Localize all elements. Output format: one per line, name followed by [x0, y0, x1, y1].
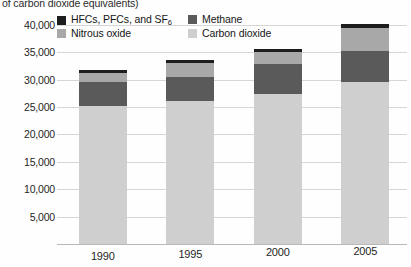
legend-swatch-methane: [188, 15, 197, 24]
bar-1995: [166, 60, 214, 244]
y-axis-tick-label: 35,000: [3, 46, 55, 58]
bar-segment-carbon-dioxide: [79, 106, 127, 244]
bar-segment-methane: [166, 77, 214, 101]
x-axis-tick-label: 1990: [73, 250, 133, 262]
bar-segment-methane: [341, 51, 389, 82]
bar-segment-hfcs-pfcs-and-sf6: [341, 24, 389, 28]
legend-swatch-hfcs-pfcs-sf6: [57, 16, 66, 25]
bar-segment-nitrous-oxide: [341, 28, 389, 52]
legend-label: Nitrous oxide: [71, 28, 131, 39]
y-axis-caption: of carbon dioxide equivalents): [2, 0, 202, 9]
bar-segment-nitrous-oxide: [254, 52, 302, 64]
y-axis-tick-labels: 5,00010,00015,00020,00025,00030,00035,00…: [0, 14, 55, 244]
bar-segment-hfcs-pfcs-and-sf6: [254, 49, 302, 52]
y-axis-tick-label: 30,000: [3, 74, 55, 86]
legend-item-hfcs-pfcs-sf6: HFCs, PFCs, and SF6: [57, 14, 172, 26]
legend-swatch-carbon-dioxide: [188, 29, 197, 38]
bar-segment-hfcs-pfcs-and-sf6: [79, 70, 127, 73]
bar-segment-methane: [79, 82, 127, 106]
x-axis-tick-label: 1995: [160, 248, 220, 260]
y-axis-tick-label: 20,000: [3, 128, 55, 140]
legend-label: HFCs, PFCs, and SF6: [71, 14, 172, 26]
bar-segment-nitrous-oxide: [79, 73, 127, 82]
bar-1990: [79, 70, 127, 244]
y-axis-tick-label: 10,000: [3, 183, 55, 195]
x-axis-tick-labels: 1990199520002005: [57, 244, 407, 266]
legend-item-carbon-dioxide: Carbon dioxide: [188, 28, 271, 39]
x-axis-tick-label: 2005: [335, 245, 395, 257]
bar-segment-hfcs-pfcs-and-sf6: [166, 60, 214, 63]
y-axis-tick-label: 5,000: [3, 211, 55, 223]
legend-label: Methane: [202, 14, 242, 25]
y-axis-tick-label: 40,000: [3, 19, 55, 31]
legend-swatch-nitrous-oxide: [57, 29, 66, 38]
bar-2000: [254, 49, 302, 244]
x-axis-tick-label: 2000: [248, 246, 308, 258]
legend-item-methane: Methane: [188, 14, 242, 25]
plot-area: [57, 14, 407, 244]
chart-legend: HFCs, PFCs, and SF6MethaneNitrous oxideC…: [57, 14, 317, 44]
bar-segment-nitrous-oxide: [166, 63, 214, 77]
bar-segment-carbon-dioxide: [341, 82, 389, 244]
bar-2005: [341, 24, 389, 244]
greenhouse-gas-stacked-bar-chart: of carbon dioxide equivalents) 5,00010,0…: [0, 0, 411, 267]
y-axis-tick-label: 15,000: [3, 156, 55, 168]
bar-segment-carbon-dioxide: [254, 94, 302, 244]
legend-label: Carbon dioxide: [202, 28, 271, 39]
legend-item-nitrous-oxide: Nitrous oxide: [57, 28, 131, 39]
y-axis-tick-label: 25,000: [3, 101, 55, 113]
bar-segment-methane: [254, 64, 302, 94]
bar-segment-carbon-dioxide: [166, 101, 214, 244]
